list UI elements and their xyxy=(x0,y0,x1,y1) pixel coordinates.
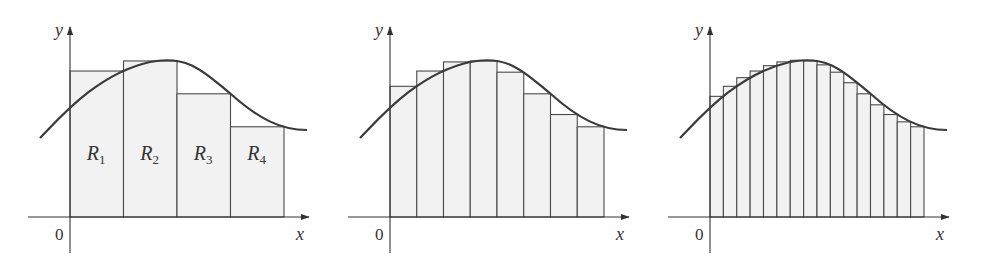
rectangle xyxy=(551,115,578,217)
panel-n16: yx0 xyxy=(668,20,949,253)
rectangle xyxy=(723,86,736,217)
rectangle xyxy=(231,127,285,217)
rectangle xyxy=(804,61,817,217)
rectangle xyxy=(911,127,924,217)
riemann-sum-figure: yx0R1R2R3R4yx0yx0 xyxy=(0,0,981,261)
rectangle xyxy=(764,66,777,217)
rectangle xyxy=(470,61,497,217)
rectangle xyxy=(871,105,884,217)
rectangle xyxy=(417,71,444,217)
rectangle xyxy=(390,86,417,217)
y-axis-label: y xyxy=(373,20,383,40)
panel-n4: yx0R1R2R3R4 xyxy=(28,20,309,253)
y-axis-label: y xyxy=(53,20,63,40)
rectangle xyxy=(524,94,551,217)
y-axis-label: y xyxy=(693,20,703,40)
rectangle xyxy=(897,122,910,217)
rectangle xyxy=(830,72,843,217)
rectangle xyxy=(777,62,790,217)
origin-label: 0 xyxy=(375,225,384,244)
x-axis-label: x xyxy=(615,224,624,244)
origin-label: 0 xyxy=(695,225,704,244)
x-axis-label: x xyxy=(295,224,304,244)
x-axis-label: x xyxy=(935,224,944,244)
rectangle xyxy=(444,62,471,217)
origin-label: 0 xyxy=(55,225,64,244)
rectangle xyxy=(124,61,178,217)
rectangle xyxy=(844,83,857,217)
rectangle xyxy=(577,127,604,217)
rectangle xyxy=(710,96,723,217)
rectangle xyxy=(737,78,750,217)
panel-n8: yx0 xyxy=(348,20,629,253)
rectangle xyxy=(857,94,870,217)
rectangle xyxy=(790,60,803,217)
rectangle xyxy=(884,115,897,217)
rectangle xyxy=(817,65,830,217)
rectangle xyxy=(750,71,763,217)
rectangle xyxy=(497,72,524,217)
